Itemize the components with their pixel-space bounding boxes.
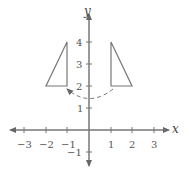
x-tick-label: −3 (17, 139, 32, 150)
y-tick-label: −1 (67, 147, 82, 158)
y-tick-label: 2 (76, 81, 82, 92)
x-tick-label: 2 (129, 139, 135, 150)
x-tick-label: 1 (108, 139, 114, 150)
left-triangle (46, 42, 67, 86)
right-triangle (111, 42, 132, 86)
y-tick-label: 4 (76, 37, 82, 48)
coordinate-plane: −3 −2 −1 1 2 3 4 3 2 1 −1 x y (0, 0, 189, 176)
reflection-arrow (67, 89, 113, 99)
y-tick-label: 3 (76, 59, 82, 70)
y-tick-label: 1 (77, 103, 83, 114)
x-tick-label: −2 (39, 139, 54, 150)
x-tick-label: 3 (151, 139, 157, 150)
x-axis-label: x (172, 122, 179, 136)
y-axis-label: y (83, 4, 91, 18)
